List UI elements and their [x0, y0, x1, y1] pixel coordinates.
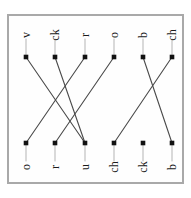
- bottom-label-r: r: [49, 165, 61, 169]
- top-label-r: r: [79, 33, 91, 37]
- top-node-ck[interactable]: [53, 55, 58, 60]
- bottom-label-b: b: [166, 164, 178, 170]
- top-label-ck: ck: [49, 29, 61, 40]
- top-label-b: b: [137, 32, 149, 38]
- connection-o-to-r[interactable]: [55, 57, 114, 143]
- top-node-ch[interactable]: [170, 55, 175, 60]
- top-node-o[interactable]: [112, 55, 117, 60]
- top-label-v: v: [20, 32, 32, 38]
- bottom-node-u[interactable]: [83, 141, 88, 146]
- bottom-node-o[interactable]: [24, 141, 29, 146]
- top-node-v[interactable]: [24, 55, 29, 60]
- top-node-group[interactable]: [24, 55, 175, 60]
- bottom-label-ck: ck: [137, 161, 149, 172]
- bottom-label-ch: ch: [108, 161, 120, 172]
- top-node-b[interactable]: [141, 55, 146, 60]
- bottom-label-o: o: [20, 164, 32, 170]
- top-label-o: o: [108, 32, 120, 38]
- top-label-ch: ch: [166, 29, 178, 40]
- bottom-stem-group: [26, 143, 172, 161]
- bottom-node-r[interactable]: [53, 141, 58, 146]
- bottom-node-group[interactable]: [24, 141, 175, 146]
- connection-line-group[interactable]: [26, 57, 172, 143]
- bottom-node-b[interactable]: [170, 141, 175, 146]
- top-node-r[interactable]: [83, 55, 88, 60]
- bottom-node-ch[interactable]: [112, 141, 117, 146]
- matching-worksheet: vckrobch oruchckb: [0, 0, 191, 198]
- connection-ch-to-ch[interactable]: [114, 57, 172, 143]
- bottom-node-ck[interactable]: [141, 141, 146, 146]
- top-stem-group: [26, 39, 172, 57]
- connection-ck-to-u[interactable]: [55, 57, 85, 143]
- bottom-label-u: u: [79, 164, 91, 170]
- connection-b-to-b[interactable]: [143, 57, 172, 143]
